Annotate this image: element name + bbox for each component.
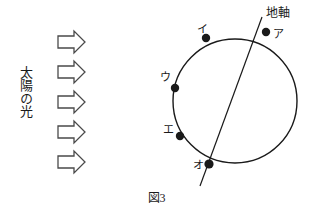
point-marker-e: [176, 132, 184, 140]
point-marker-o: [204, 159, 213, 168]
point-label-i: イ: [197, 24, 208, 35]
right-arrow-icon: [58, 31, 85, 53]
point-marker-i: [202, 34, 210, 42]
diagram-canvas: [0, 0, 313, 211]
right-arrow-icon: [58, 121, 85, 143]
point-label-e: エ: [163, 124, 174, 135]
point-label-a: ア: [273, 29, 284, 40]
earth-circle: [173, 39, 297, 163]
figure-caption: 図3: [0, 188, 313, 206]
right-arrow-icon: [58, 91, 85, 113]
point-label-u: ウ: [160, 72, 171, 83]
point-marker-a: [262, 28, 270, 36]
earth-group: [171, 17, 297, 186]
right-arrow-icon: [58, 151, 85, 173]
point-label-o: オ: [193, 160, 204, 171]
earth-axis-label: 地軸: [266, 7, 290, 19]
figure-diagram-earth-sunlight: 太陽の光 地軸 ア イ ウ エ オ 図3: [0, 0, 313, 211]
point-marker-u: [171, 84, 179, 92]
right-arrow-icon: [58, 61, 85, 83]
sunlight-arrow-group: [58, 31, 85, 173]
sunlight-label: 太陽の光: [16, 66, 33, 118]
